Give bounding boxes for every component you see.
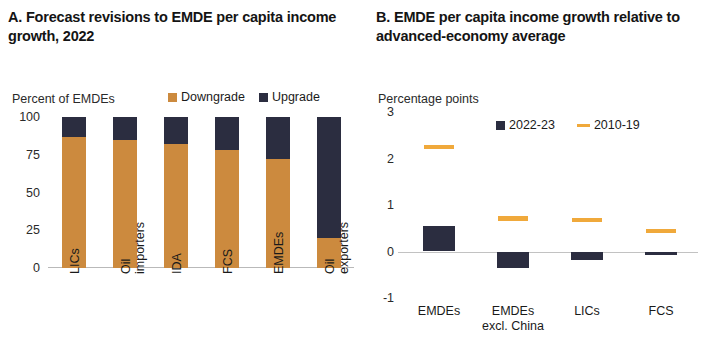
legend-item: Downgrade — [168, 90, 245, 104]
x-tick-label-line: EMDEs — [418, 304, 460, 318]
panel-b-axis-unit: Percentage points — [378, 92, 479, 106]
x-tick-label: LICs — [68, 248, 82, 274]
bar-segment-upgrade — [317, 117, 341, 238]
panel-a-legend: DowngradeUpgrade — [168, 90, 320, 104]
x-tick-label: Oilimporters — [119, 222, 147, 274]
bar-segment-upgrade — [164, 117, 188, 144]
y-tick-label: 3 — [368, 105, 394, 119]
x-tick-label-line: Oil — [323, 259, 337, 274]
bar-segment-upgrade — [113, 117, 137, 140]
dash-2010-19 — [646, 229, 676, 234]
x-tick-label: FCS — [221, 249, 235, 274]
x-tick-label-line: importers — [133, 222, 147, 274]
bar-2022-23 — [497, 252, 529, 268]
stacked-bar — [164, 117, 188, 268]
x-tick-label-line: LICs — [68, 248, 82, 274]
bar-segment-downgrade — [164, 144, 188, 268]
x-tick-label-line: exporters — [337, 222, 351, 274]
panel-a-plot-area — [48, 117, 354, 268]
y-tick-label: 2 — [368, 152, 394, 166]
x-tick-label-line: LICs — [574, 304, 600, 318]
x-tick-label-line: Oil — [119, 259, 133, 274]
bar-segment-upgrade — [62, 117, 86, 137]
y-tick-label: 50 — [6, 186, 40, 200]
x-tick-label-line: IDA — [170, 253, 184, 274]
bar-segment-upgrade — [266, 117, 290, 159]
panel-b: B. EMDE per capita income growth relativ… — [368, 0, 708, 345]
x-tick-label-line: excl. China — [458, 319, 568, 334]
legend-item: Upgrade — [259, 90, 320, 104]
x-tick-label-line: FCS — [649, 304, 674, 318]
panel-a-title: A. Forecast revisions to EMDE per capita… — [8, 8, 358, 46]
y-tick-label: -1 — [368, 291, 394, 305]
x-tick-label-line: FCS — [221, 249, 235, 274]
y-tick-label: 1 — [368, 198, 394, 212]
bar-segment-upgrade — [215, 117, 239, 150]
x-tick-label: IDA — [170, 253, 184, 274]
dash-2010-19 — [572, 218, 602, 223]
legend-swatch-square-icon — [168, 93, 177, 102]
legend-label: Downgrade — [181, 90, 245, 104]
dash-2010-19 — [498, 216, 528, 221]
panel-b-plot-area — [402, 112, 698, 298]
y-tick-label: 75 — [6, 148, 40, 162]
dash-2010-19 — [424, 145, 454, 150]
bar-2022-23 — [645, 252, 677, 256]
x-tick-label-line: EMDEs — [492, 304, 534, 318]
y-tick-label: 0 — [6, 261, 40, 275]
panel-a: A. Forecast revisions to EMDE per capita… — [0, 0, 368, 345]
panel-a-axis-unit: Percent of EMDEs — [12, 92, 115, 106]
legend-swatch-square-icon — [259, 93, 268, 102]
x-tick-label: EMDEs — [272, 232, 286, 274]
figure-container: A. Forecast revisions to EMDE per capita… — [0, 0, 708, 345]
x-tick-label: Oilexporters — [323, 222, 351, 274]
panel-b-title: B. EMDE per capita income growth relativ… — [376, 8, 706, 46]
stacked-bar — [215, 117, 239, 268]
bar-2022-23 — [571, 252, 603, 260]
y-tick-label: 0 — [368, 245, 394, 259]
x-tick-label-line: EMDEs — [272, 232, 286, 274]
bar-2022-23 — [423, 226, 455, 252]
x-tick-label: FCS — [606, 304, 708, 319]
panel-a-baseline — [48, 267, 354, 268]
stacked-bar — [62, 117, 86, 268]
legend-label: Upgrade — [272, 90, 320, 104]
y-tick-label: 25 — [6, 223, 40, 237]
y-tick-label: 100 — [6, 110, 40, 124]
